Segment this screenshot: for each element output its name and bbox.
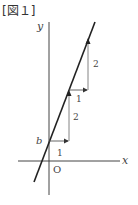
rise-arrowhead-2 bbox=[86, 38, 91, 44]
rise-label-1: 2 bbox=[73, 112, 79, 122]
slope-diagram: y x O b 1 2 1 2 bbox=[0, 0, 138, 205]
run-label-1: 1 bbox=[57, 148, 63, 158]
origin-label: O bbox=[53, 164, 61, 175]
run-label-2: 1 bbox=[76, 94, 82, 104]
x-axis-label: x bbox=[122, 154, 129, 167]
intercept-label: b bbox=[36, 135, 42, 146]
graph-line bbox=[34, 22, 95, 182]
y-axis-label: y bbox=[36, 20, 44, 33]
rise-label-2: 2 bbox=[93, 59, 99, 69]
